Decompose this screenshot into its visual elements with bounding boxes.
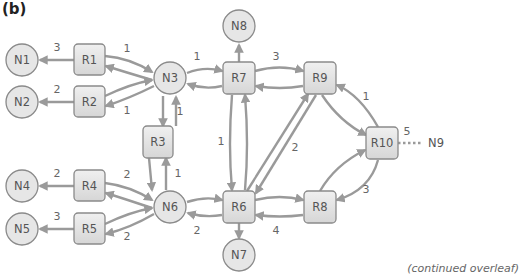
router-r8: R8 — [304, 191, 336, 223]
router-r3-label: R3 — [150, 135, 165, 149]
node-n3: N3 — [154, 62, 186, 94]
edge-r6-n6 — [188, 213, 222, 216]
weight-r9-r10: 1 — [363, 90, 370, 103]
node-n2-label: N2 — [14, 95, 30, 109]
node-n5-label: N5 — [14, 222, 30, 236]
weight-r8-r10: 3 — [363, 183, 370, 196]
edge-n6-r6 — [187, 198, 222, 202]
weight-r1-n1: 3 — [54, 41, 61, 54]
weight-r4-n6: 2 — [124, 168, 131, 181]
router-r1: R1 — [74, 44, 105, 75]
edge-r7-r9 — [255, 68, 303, 72]
edge-r6-r8 — [255, 197, 303, 200]
node-n3-label: N3 — [162, 71, 178, 85]
weight-n3-r7: 1 — [194, 50, 201, 63]
router-r2-label: R2 — [82, 95, 97, 109]
node-n1-label: N1 — [14, 53, 30, 67]
edge-r5-n6 — [105, 208, 152, 224]
router-r9-label: R9 — [312, 71, 327, 85]
edge-n3-r7 — [187, 69, 222, 73]
edge-r10-r8 — [337, 160, 378, 200]
router-r8-label: R8 — [312, 200, 327, 214]
node-n6: N6 — [154, 191, 186, 223]
edge-r9-r6 — [256, 95, 316, 193]
weight-r10-n9: 5 — [404, 125, 411, 138]
node-n7-label: N7 — [231, 248, 247, 262]
network-diagram: 3 2 1 1 1 3 1 1 1 2 1 5 3 2 2 3 2 2 4 N1… — [0, 0, 525, 279]
weight-r6-r9: 2 — [292, 141, 299, 154]
edge-r9-r7 — [256, 86, 303, 88]
edge-r7-n3 — [188, 84, 222, 88]
weight-r1-n3: 1 — [124, 42, 131, 55]
edge-r6-r7 — [245, 95, 247, 190]
router-r6: R6 — [223, 191, 255, 223]
edge-r1-n3 — [105, 56, 152, 72]
router-r10-label: R10 — [371, 136, 394, 150]
node-n5: N5 — [6, 213, 38, 245]
router-r4: R4 — [74, 170, 105, 201]
node-n4: N4 — [6, 170, 38, 202]
node-n6-label: N6 — [162, 200, 178, 214]
weight-r2-n2: 2 — [54, 83, 61, 96]
edge-r2-n3 — [105, 80, 152, 96]
router-r10: R10 — [366, 127, 398, 159]
edge-r6-r9 — [247, 94, 308, 191]
edge-r4-n6 — [105, 183, 152, 200]
weight-r7-r9: 3 — [273, 50, 280, 63]
node-n8: N8 — [223, 10, 255, 42]
weight-n3-r3: 1 — [177, 105, 184, 118]
edge-r8-r10 — [320, 150, 365, 191]
node-n9: N9 — [428, 136, 444, 150]
router-r1-label: R1 — [82, 53, 97, 67]
edge-r3-n6 — [149, 158, 152, 190]
node-n9-label: N9 — [428, 136, 444, 150]
weight-r4-n4: 2 — [54, 167, 61, 180]
node-n2: N2 — [6, 86, 38, 118]
router-r4-label: R4 — [82, 179, 97, 193]
edge-r8-r6 — [256, 215, 303, 217]
router-r7: R7 — [223, 62, 255, 94]
router-r3: R3 — [143, 126, 173, 158]
router-r5-label: R5 — [82, 222, 97, 236]
node-n7: N7 — [223, 239, 255, 271]
weight-r7-r6: 1 — [218, 135, 225, 148]
continued-note: (continued overleaf) — [407, 262, 519, 275]
weight-n6-r6: 2 — [194, 224, 201, 237]
weight-r6-r8: 4 — [273, 224, 280, 237]
weight-r3-n6: 1 — [175, 167, 182, 180]
edge-r7-r6 — [230, 95, 232, 190]
weight-r5-n5: 3 — [54, 210, 61, 223]
router-r2: R2 — [74, 86, 105, 117]
router-r9: R9 — [304, 62, 336, 94]
router-r5: R5 — [74, 213, 105, 244]
router-r7-label: R7 — [231, 71, 246, 85]
weight-n6-r5: 2 — [124, 230, 131, 243]
router-r6-label: R6 — [231, 200, 246, 214]
node-n4-label: N4 — [14, 179, 30, 193]
node-n8-label: N8 — [231, 19, 247, 33]
weight-n3-r2: 1 — [124, 104, 131, 117]
node-n1: N1 — [6, 44, 38, 76]
